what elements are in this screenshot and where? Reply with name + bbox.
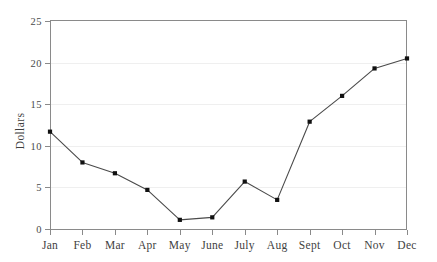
y-tick-label-5: 5 bbox=[36, 182, 42, 193]
axis-spine-bottom bbox=[50, 229, 407, 230]
data-point-dec bbox=[405, 56, 409, 60]
x-tick-label-mar: Mar bbox=[105, 239, 125, 251]
x-tick-mark-dec bbox=[407, 230, 408, 235]
x-tick-label-dec: Dec bbox=[397, 239, 416, 251]
x-tick-mark-june bbox=[212, 230, 213, 235]
x-tick-mark-apr bbox=[147, 230, 148, 235]
plot-area: 0510152025 JanFebMarAprMayJuneJulyAugSep… bbox=[50, 21, 407, 229]
y-tick-label-20: 20 bbox=[31, 57, 43, 68]
y-axis-title: Dollars bbox=[10, 0, 30, 262]
series-dollars bbox=[50, 21, 407, 229]
series-line bbox=[50, 58, 407, 219]
x-tick-label-aug: Aug bbox=[267, 239, 288, 251]
data-point-may bbox=[178, 218, 182, 222]
line-chart-figure: Dollars 0510152025 JanFebMarAprMayJuneJu… bbox=[0, 0, 437, 262]
y-tick-label-0: 0 bbox=[36, 224, 42, 235]
x-tick-label-sept: Sept bbox=[299, 239, 321, 251]
x-tick-label-jan: Jan bbox=[42, 239, 58, 251]
x-tick-mark-oct bbox=[342, 230, 343, 235]
y-tick-label-15: 15 bbox=[31, 99, 43, 110]
x-tick-label-apr: Apr bbox=[138, 239, 157, 251]
data-point-oct bbox=[340, 94, 344, 98]
y-tick-label-25: 25 bbox=[31, 16, 43, 27]
x-tick-mark-mar bbox=[115, 230, 116, 235]
x-tick-label-oct: Oct bbox=[333, 239, 351, 251]
data-point-mar bbox=[113, 171, 117, 175]
data-point-apr bbox=[145, 188, 149, 192]
y-tick-label-10: 10 bbox=[31, 140, 43, 151]
series-markers-group bbox=[48, 56, 409, 222]
x-tick-label-may: May bbox=[169, 239, 191, 251]
data-point-june bbox=[210, 215, 214, 219]
x-tick-mark-july bbox=[245, 230, 246, 235]
x-tick-label-june: June bbox=[201, 239, 223, 251]
data-point-sept bbox=[308, 120, 312, 124]
x-tick-mark-feb bbox=[82, 230, 83, 235]
x-tick-mark-sept bbox=[310, 230, 311, 235]
data-point-aug bbox=[275, 198, 279, 202]
data-point-feb bbox=[80, 160, 84, 164]
x-tick-label-feb: Feb bbox=[73, 239, 91, 251]
x-tick-label-july: July bbox=[235, 239, 255, 251]
data-point-july bbox=[243, 179, 247, 183]
x-tick-mark-may bbox=[180, 230, 181, 235]
data-point-jan bbox=[48, 130, 52, 134]
x-tick-mark-aug bbox=[277, 230, 278, 235]
x-tick-mark-nov bbox=[375, 230, 376, 235]
x-tick-label-nov: Nov bbox=[364, 239, 385, 251]
x-tick-mark-jan bbox=[50, 230, 51, 235]
data-point-nov bbox=[372, 66, 376, 70]
